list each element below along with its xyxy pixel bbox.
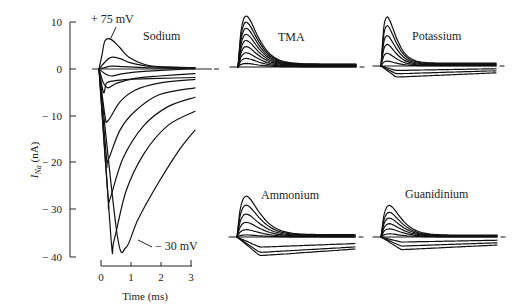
y-tick-label: − 10 — [42, 110, 62, 122]
panel-label-tma: TMA — [278, 30, 305, 44]
potassium-traces — [373, 17, 504, 77]
sodium-traces — [99, 39, 195, 254]
sodium-trace — [99, 69, 195, 253]
panel-label-sodium: Sodium — [143, 29, 181, 43]
y-tick-label: − 30 — [42, 203, 62, 215]
x-tick-label: 3 — [188, 271, 194, 283]
panel-label-ammonium: Ammonium — [261, 188, 320, 202]
y-tick-label: − 40 — [42, 251, 62, 263]
x-tick-label: 1 — [128, 271, 134, 283]
svg-text:INa (nA): INa (nA) — [28, 141, 43, 179]
sodium-trace — [99, 69, 195, 254]
sodium-trace — [99, 39, 195, 69]
ammonium-trace — [237, 237, 355, 247]
ammonium-trace — [237, 205, 355, 237]
y-axis: 10 0 − 10 − 20 − 30 − 40 — [42, 16, 76, 263]
annotation-bottom-leader — [138, 240, 152, 247]
annotation-top-leader — [110, 27, 116, 40]
annotation-bottom: − 30 mV — [155, 239, 198, 253]
guanidinium-trace — [381, 212, 497, 237]
guanidinium-trace — [381, 237, 497, 242]
figure: 10 0 − 10 − 20 − 30 − 40 INa (nA) 0 1 2 … — [0, 0, 531, 308]
potassium-trace — [381, 66, 496, 70]
x-axis-title: Time (ms) — [122, 290, 168, 303]
ammonium-traces — [229, 196, 363, 255]
guanidinium-trace — [381, 205, 497, 237]
y-axis-title: INa (nA) — [28, 141, 43, 179]
y-tick-label: − 20 — [42, 156, 62, 168]
panel-label-guanidinium: Guanidinium — [405, 187, 469, 201]
y-tick-label: 10 — [51, 16, 63, 28]
x-axis: 0 1 2 3 Time (ms) — [98, 260, 194, 303]
guanidinium-traces — [373, 205, 505, 249]
annotation-top: + 75 mV — [91, 12, 134, 26]
x-tick-label: 0 — [98, 271, 104, 283]
panel-label-potassium: Potassium — [412, 29, 462, 43]
chart-svg: 10 0 − 10 − 20 − 30 − 40 INa (nA) 0 1 2 … — [0, 0, 531, 308]
x-tick-label: 2 — [158, 271, 164, 283]
y-tick-label: 0 — [57, 63, 63, 75]
